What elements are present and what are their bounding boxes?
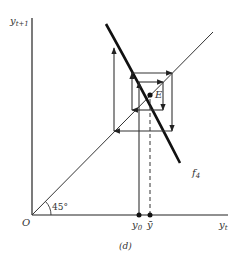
x-axis-label: yt <box>219 220 227 232</box>
f4-curve <box>106 24 180 163</box>
angle-label: 45° <box>52 203 68 212</box>
curve-label: f4 <box>192 168 200 180</box>
y0-tick-label: y0 <box>132 220 142 232</box>
origin-label: O <box>22 218 30 228</box>
ybar-point <box>148 213 153 218</box>
y0-point <box>137 213 142 218</box>
figure-caption: (d) <box>119 242 132 251</box>
equilibrium-label: E <box>155 90 162 100</box>
ybar-tick-label: ȳ <box>147 220 153 230</box>
y-axis-label: yt+1 <box>10 16 29 28</box>
cobweb-diagram <box>0 0 240 267</box>
angle-arc <box>46 202 52 216</box>
45-degree-line <box>32 32 213 215</box>
equilibrium-point <box>147 92 152 97</box>
